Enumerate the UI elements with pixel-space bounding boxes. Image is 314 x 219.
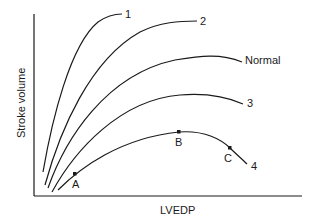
curve-4: [58, 132, 247, 190]
curve-3-label: 3: [247, 97, 253, 109]
curve-4-label: 4: [251, 160, 257, 172]
point-a-marker: [73, 172, 77, 176]
curve-2: [45, 21, 197, 185]
point-b-label: B: [175, 136, 182, 148]
curve-3: [52, 94, 243, 192]
curve-normal-label: Normal: [245, 54, 280, 66]
point-c-marker: [228, 146, 232, 150]
x-axis-title: LVEDP: [160, 204, 195, 216]
point-a-label: A: [72, 178, 80, 190]
point-c-label: C: [224, 152, 232, 164]
point-b-marker: [177, 130, 181, 134]
curve-2-label: 2: [200, 15, 206, 27]
y-axis-title: Stroke volume: [15, 68, 27, 138]
ventricular-function-diagram: 1 2 Normal 3 4 A B C LVEDP Stroke volume: [0, 0, 314, 219]
curve-1-label: 1: [125, 8, 131, 20]
curve-normal: [48, 56, 242, 188]
